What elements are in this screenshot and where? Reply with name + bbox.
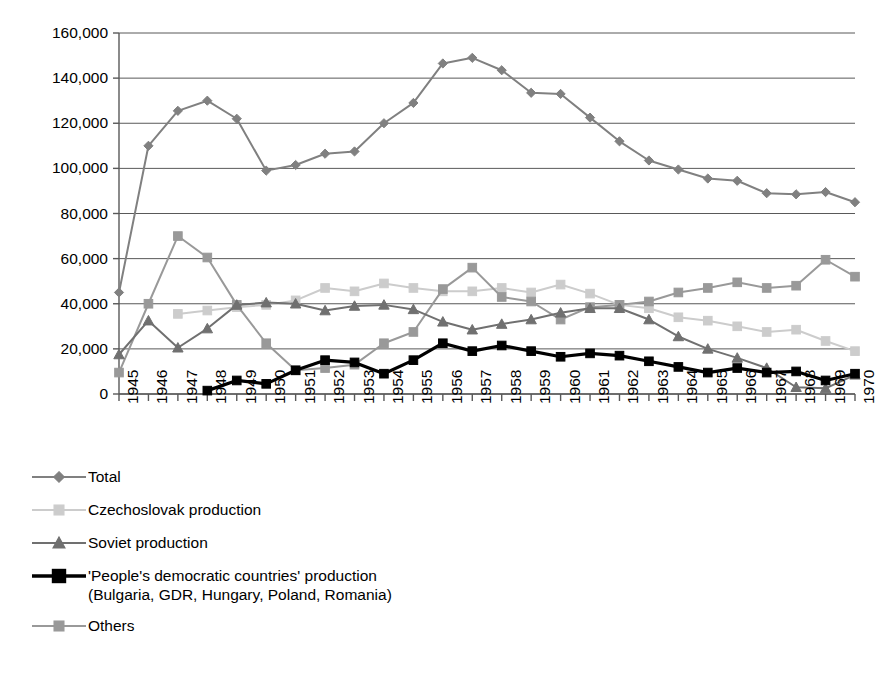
data-point-square [291,366,300,375]
data-point-square [174,232,183,241]
legend-label: Others [88,615,135,635]
x-tick-label: 1961 [596,370,612,404]
x-tick-label: 1953 [361,370,377,404]
x-tick-label: 1966 [743,370,759,404]
data-point-square [380,369,389,378]
data-point-diamond [674,165,683,174]
data-point-square [792,325,801,334]
data-point-square [321,364,330,373]
x-tick-label: 1949 [243,370,259,404]
data-point-square [232,376,241,385]
data-point-diamond [232,114,241,123]
data-point-square [350,358,359,367]
series-czechoslovak-production [174,279,860,355]
data-point-square [645,297,654,306]
square-icon [30,499,88,521]
data-point-square [586,289,595,298]
data-point-square [762,328,771,337]
data-point-square [792,367,801,376]
legend-label: 'People's democratic countries' producti… [88,565,392,604]
legend-label: Total [88,466,121,486]
data-point-square [439,339,448,348]
data-point-square [733,364,742,373]
x-tick-label: 1969 [832,370,848,404]
data-point-square [321,356,330,365]
data-point-square [821,337,830,346]
diamond-icon [30,466,88,488]
data-series-group [114,53,860,395]
x-tick-label: 1968 [802,370,818,404]
data-point-square [586,349,595,358]
data-point-square [144,299,153,308]
data-point-square [615,351,624,360]
data-point-square [792,281,801,290]
data-point-square [321,284,330,293]
x-tick-label: 1962 [625,370,641,404]
x-tick-label: 1957 [478,370,494,404]
legend-item[interactable]: Czechoslovak production [30,499,730,521]
data-point-square [380,279,389,288]
x-tick-label: 1952 [331,370,347,404]
legend-item[interactable]: 'People's democratic countries' producti… [30,565,730,604]
data-point-square [203,306,212,315]
x-tick-label: 1951 [302,370,318,404]
data-point-square [527,347,536,356]
square-icon [30,565,88,587]
data-point-square [674,363,683,372]
data-point-square [821,255,830,264]
data-point-square [203,386,212,395]
chart-legend: TotalCzechoslovak productionSoviet produ… [30,466,730,648]
data-point-diamond [114,288,123,297]
y-tick-label: 0 [0,386,108,402]
data-point-diamond [203,96,212,105]
x-tick-label: 1945 [125,370,141,404]
data-point-diamond [703,174,712,183]
x-tick-label: 1946 [154,370,170,404]
series-line [178,283,855,351]
x-tick-label: 1950 [272,370,288,404]
data-point-square [115,368,124,377]
triangle-icon [30,532,88,554]
data-point-square [674,288,683,297]
data-point-square [527,288,536,297]
y-axis [113,33,119,394]
legend-item[interactable]: Others [30,615,730,637]
data-point-square [704,284,713,293]
y-tick-label: 160,000 [0,25,108,41]
data-point-diamond [850,198,859,207]
data-point-square [409,284,418,293]
y-tick-label: 140,000 [0,70,108,86]
data-point-square [350,287,359,296]
x-tick-label: 1965 [714,370,730,404]
square-icon [30,615,88,637]
data-point-square [497,293,506,302]
data-point-square [203,253,212,262]
data-point-diamond [792,190,801,199]
x-tick-label: 1964 [684,370,700,404]
data-point-square [704,368,713,377]
y-tick-label: 60,000 [0,251,108,267]
data-point-square [851,347,860,356]
series-total [114,53,859,297]
legend-label: Czechoslovak production [88,499,261,519]
data-point-square [262,380,271,389]
data-point-triangle [673,331,683,340]
y-tick-label: 40,000 [0,296,108,312]
x-tick-label: 1948 [213,370,229,404]
y-tick-label: 80,000 [0,206,108,222]
data-point-square [556,352,565,361]
data-point-diamond [262,166,271,175]
y-tick-label: 100,000 [0,160,108,176]
x-tick-label: 1954 [390,370,406,404]
x-tick-label: 1955 [419,370,435,404]
data-point-square [468,347,477,356]
data-point-square [468,263,477,272]
data-point-square [851,272,860,281]
data-point-square [53,570,66,583]
data-point-square [262,339,271,348]
data-point-square [439,285,448,294]
data-point-square [645,357,654,366]
legend-item[interactable]: Total [30,466,730,488]
legend-item[interactable]: Soviet production [30,532,730,554]
